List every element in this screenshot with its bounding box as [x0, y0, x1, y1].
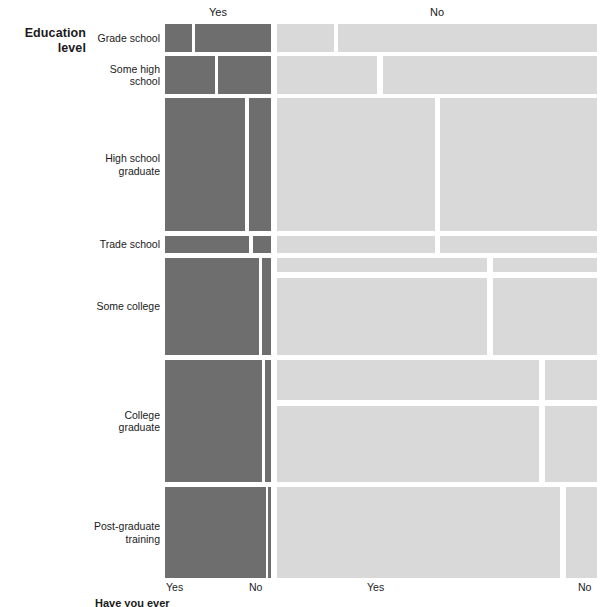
mosaic-tile: [249, 98, 271, 231]
mosaic-tile: [253, 236, 271, 253]
mosaic-tile: [545, 406, 597, 482]
x-axis-title: Have you ever: [95, 597, 170, 607]
x-tick-label-0: Yes: [166, 581, 183, 593]
mosaic-tile: [277, 56, 377, 94]
mosaic-tile: [277, 258, 487, 272]
x-tick-label-2: Yes: [367, 581, 384, 593]
mosaic-tile: [165, 24, 192, 52]
mosaic-tile: [265, 360, 271, 482]
mosaic-tile: [277, 360, 539, 400]
mosaic-tile: [277, 278, 487, 355]
mosaic-tile: [440, 98, 597, 231]
mosaic-tile: [268, 487, 271, 578]
x-tick-label-3: No: [578, 581, 591, 593]
mosaic-tile: [165, 360, 262, 482]
mosaic-tile: [262, 258, 271, 355]
mosaic-tile: [165, 487, 266, 578]
mosaic-tile: [165, 236, 249, 253]
mosaic-tile: [195, 24, 271, 52]
mosaic-tile: [440, 236, 597, 253]
mosaic-tile: [165, 56, 215, 94]
mosaic-tile: [277, 236, 435, 253]
mosaic-tile: [545, 360, 597, 400]
mosaic-tile: [277, 406, 539, 482]
mosaic-tile: [338, 24, 597, 52]
mosaic-tile: [277, 24, 334, 52]
mosaic-tile: [277, 487, 560, 578]
mosaic-tile: [277, 98, 435, 231]
mosaic-tile: [218, 56, 271, 94]
mosaic-tile: [493, 258, 597, 272]
mosaic-tile: [165, 98, 245, 231]
mosaic-tile: [566, 487, 597, 578]
mosaic-tile: [383, 56, 597, 94]
mosaic-tile: [165, 258, 259, 355]
x-tick-label-1: No: [249, 581, 262, 593]
mosaic-chart-page: Education level YesNo Grade schoolSome h…: [0, 0, 602, 607]
mosaic-plot-area: [0, 0, 602, 607]
mosaic-tile: [493, 278, 597, 355]
